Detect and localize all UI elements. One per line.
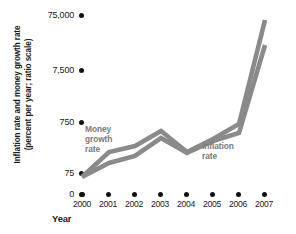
series-line-inflation-rate (82, 45, 265, 177)
x-tick-label-2006: 2006 (225, 200, 251, 209)
x-tick-label-2003: 2003 (147, 200, 173, 209)
x-tick-dot-2000 (80, 192, 85, 197)
x-tick-label-2007: 2007 (251, 200, 277, 209)
x-tick-dot-2004 (184, 192, 189, 197)
x-tick-dot-2005 (210, 192, 215, 197)
x-tick-label-2002: 2002 (121, 200, 147, 209)
x-tick-dot-2002 (132, 192, 137, 197)
series-annotation-inflation-rate: Inflation rate (202, 141, 234, 161)
chart-container: Inflation rate and money growth rate (pe… (0, 0, 296, 234)
series-annotation-money-line1: Money (85, 124, 112, 134)
x-tick-label-2004: 2004 (173, 200, 199, 209)
x-tick-dot-2003 (158, 192, 163, 197)
x-tick-label-2005: 2005 (199, 200, 225, 209)
x-tick-dot-2007 (262, 192, 267, 197)
series-annotation-money-line3: rate (85, 144, 112, 154)
plot-area (0, 0, 296, 234)
series-annotation-inflation-line1: Inflation (202, 141, 234, 151)
x-tick-label-2001: 2001 (95, 200, 121, 209)
series-annotation-money-line2: growth (85, 134, 112, 144)
x-axis-title: Year (52, 213, 71, 224)
x-tick-dot-2006 (236, 192, 241, 197)
series-annotation-inflation-line2: rate (202, 151, 234, 161)
series-annotation-money-growth-rate: Money growth rate (85, 124, 112, 155)
x-tick-dot-2001 (106, 192, 111, 197)
x-tick-label-2000: 2000 (69, 200, 95, 209)
